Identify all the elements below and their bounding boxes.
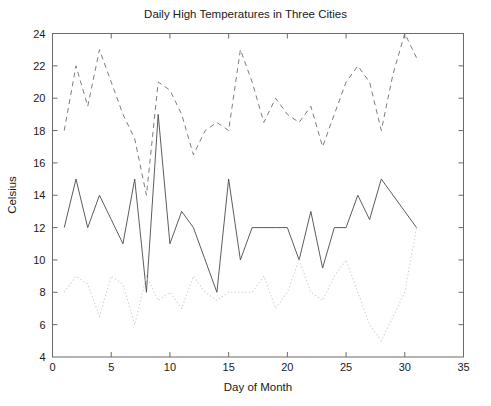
y-tick-label: 18 [33,125,45,137]
temperature-line-chart: Daily High Temperatures in Three Cities … [0,0,491,406]
data-series-group [64,34,416,341]
series-line-solid [64,114,416,292]
y-tick-label: 20 [33,92,45,104]
y-tick-label: 4 [39,351,45,363]
y-tick-label: 6 [39,319,45,331]
x-tick-label: 25 [340,361,352,373]
x-tick-label: 5 [108,361,114,373]
y-tick-label: 16 [33,157,45,169]
series-line-dashed [64,34,416,196]
x-tick-label: 35 [457,361,469,373]
plot-frame [53,34,464,358]
x-tick-label: 0 [49,361,55,373]
x-axis-label: Day of Month [224,381,292,393]
x-tick-label: 30 [399,361,411,373]
x-tick-label: 15 [223,361,235,373]
x-tick-label: 10 [164,361,176,373]
y-axis-label: Celsius [6,176,18,214]
y-tick-label: 10 [33,254,45,266]
series-line-dotted [64,228,416,341]
y-tick-label: 24 [33,28,45,40]
y-axis-ticks: 4681012141618202224 [33,28,463,364]
y-tick-label: 14 [33,189,45,201]
x-tick-label: 20 [281,361,293,373]
chart-figure: Daily High Temperatures in Three Cities … [0,0,491,406]
chart-title: Daily High Temperatures in Three Cities [144,8,347,20]
y-tick-label: 12 [33,222,45,234]
y-tick-label: 8 [39,286,45,298]
y-tick-label: 22 [33,60,45,72]
